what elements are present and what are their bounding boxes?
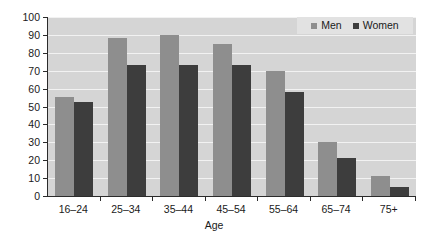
x-tick-mark	[100, 197, 101, 201]
x-tick-mark	[257, 197, 258, 201]
x-tick-mark	[415, 197, 416, 201]
x-tick-label: 75+	[362, 203, 415, 215]
x-axis-title: Age	[0, 219, 428, 231]
chart-legend: Men Women	[297, 17, 413, 34]
x-tick-label: 45–54	[205, 203, 258, 215]
x-tick-label: 55–64	[257, 203, 310, 215]
x-tick-mark	[152, 197, 153, 201]
legend-label-women: Women	[363, 20, 399, 31]
x-tick-label: 65–74	[310, 203, 363, 215]
legend-swatch-men-icon	[311, 23, 317, 29]
legend-entry-men: Men	[311, 20, 341, 31]
legend-label-men: Men	[321, 20, 341, 31]
x-tick-label: 35–44	[152, 203, 205, 215]
x-tick-mark	[310, 197, 311, 201]
legend-entry-women: Women	[353, 20, 399, 31]
x-tick-mark	[205, 197, 206, 201]
x-tick-label: 16–24	[47, 203, 100, 215]
x-tick-label: 25–34	[100, 203, 153, 215]
x-tick-mark	[362, 197, 363, 201]
x-axis-ticks: 16–2425–3435–4445–5455–6465–7475+	[0, 0, 428, 246]
legend-swatch-women-icon	[353, 23, 359, 29]
bar-chart-figure: Participation rate 010203040506070809010…	[0, 0, 428, 246]
